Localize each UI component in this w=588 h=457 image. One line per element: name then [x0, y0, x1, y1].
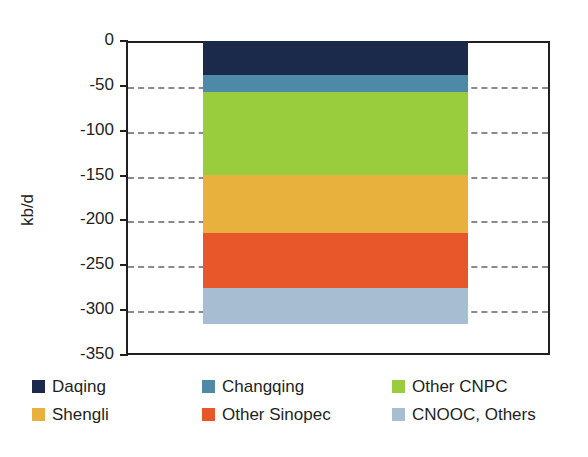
bar-segment-cnooc-others: [203, 288, 468, 324]
bar-segment-other-cnpc: [203, 92, 468, 175]
y-tick-label-2: -100: [24, 120, 114, 140]
stacked-bar-chart-figure: kb/d 0-50-100-150-200-250-300-350 Daqing…: [0, 0, 588, 457]
y-tick-label-7: -350: [24, 344, 114, 364]
y-tick-label-0: 0: [24, 30, 114, 50]
bar-segment-daqing: [203, 41, 468, 75]
legend-label-other-sinopec: Other Sinopec: [222, 406, 331, 423]
bar-segment-other-sinopec: [203, 233, 468, 288]
bar-segment-shengli: [203, 175, 468, 233]
legend-swatch-daqing: [32, 380, 45, 393]
legend-label-shengli: Shengli: [52, 406, 109, 423]
chart-legend: DaqingChangqingOther CNPCShengliOther Si…: [32, 372, 572, 428]
stacked-bar: [203, 41, 468, 324]
legend-item-cnooc-others[interactable]: CNOOC, Others: [392, 406, 572, 423]
legend-label-cnooc-others: CNOOC, Others: [412, 406, 536, 423]
legend-label-other-cnpc: Other CNPC: [412, 378, 507, 395]
legend-swatch-changqing: [202, 380, 215, 393]
legend-item-shengli[interactable]: Shengli: [32, 406, 202, 423]
legend-item-other-cnpc[interactable]: Other CNPC: [392, 378, 572, 395]
y-tick-label-6: -300: [24, 299, 114, 319]
legend-label-changqing: Changqing: [222, 378, 304, 395]
bar-segment-changqing: [203, 75, 468, 92]
y-tick-label-5: -250: [24, 254, 114, 274]
legend-item-other-sinopec[interactable]: Other Sinopec: [202, 406, 392, 423]
legend-swatch-shengli: [32, 408, 45, 421]
legend-item-daqing[interactable]: Daqing: [32, 378, 202, 395]
y-tick-label-3: -150: [24, 165, 114, 185]
y-tick-label-4: -200: [24, 209, 114, 229]
y-tick-label-1: -50: [24, 75, 114, 95]
legend-swatch-cnooc-others: [392, 408, 405, 421]
legend-swatch-other-cnpc: [392, 380, 405, 393]
legend-swatch-other-sinopec: [202, 408, 215, 421]
legend-item-changqing[interactable]: Changqing: [202, 378, 392, 395]
legend-label-daqing: Daqing: [52, 378, 106, 395]
